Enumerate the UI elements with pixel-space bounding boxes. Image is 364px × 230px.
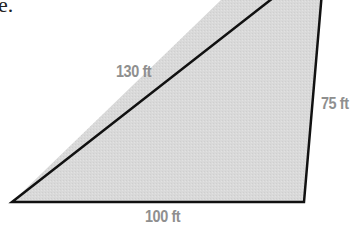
right-side-length-label: 75 ft <box>321 94 349 114</box>
triangle-shape <box>0 0 364 230</box>
hypotenuse-length-label: 130 ft <box>116 62 151 82</box>
triangle-figure: e. 130 ft 75 ft 100 ft <box>0 0 364 230</box>
base-length-label: 100 ft <box>145 207 180 227</box>
